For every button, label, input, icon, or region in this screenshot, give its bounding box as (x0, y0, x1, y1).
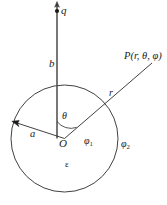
physics-diagram: q b P(r, θ, φ) r θ a O φ1 φ2 ε (0, 0, 167, 205)
radial-ray-r (65, 63, 153, 139)
theta-angle-arc (57, 122, 77, 129)
label-potential-inside-subscript: 1 (90, 140, 93, 147)
label-sphere-radius: a (30, 129, 35, 140)
label-potential-outside: φ2 (121, 139, 130, 151)
label-origin: O (59, 138, 67, 149)
label-polar-angle: θ (62, 111, 67, 121)
diagram-canvas (0, 0, 167, 205)
vertical-axis-arrowhead (55, 2, 60, 8)
label-distance-b: b (49, 58, 55, 69)
label-charge: q (61, 5, 67, 16)
label-potential-inside: φ1 (84, 136, 93, 148)
label-permittivity: ε (65, 160, 69, 169)
charge-point-marker (55, 9, 59, 13)
label-radial-distance: r (109, 88, 113, 98)
label-potential-outside-subscript: 2 (127, 143, 130, 150)
label-field-point: P(r, θ, φ) (124, 51, 162, 62)
